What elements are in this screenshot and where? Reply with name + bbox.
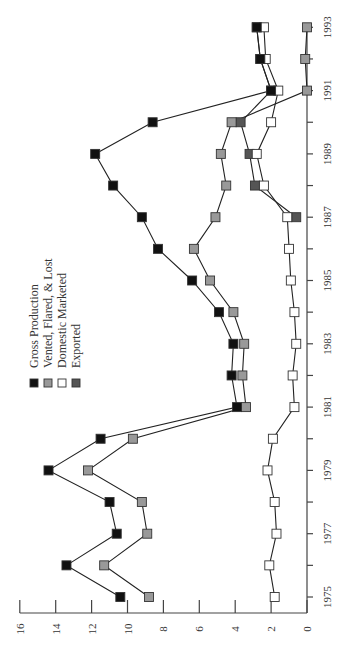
value-axis-tick-label: 6 [193, 626, 205, 632]
data-point-marker [206, 276, 215, 285]
data-point-marker [236, 118, 245, 127]
data-point-marker [91, 149, 100, 158]
data-point-marker [189, 244, 198, 253]
value-axis-tick-label: 14 [50, 623, 62, 635]
data-point-marker [211, 213, 220, 222]
data-point-marker [112, 529, 121, 538]
data-point-marker [292, 339, 301, 348]
year-axis-tick-label: 1981 [321, 396, 333, 418]
data-point-marker [216, 149, 225, 158]
data-point-marker [143, 529, 152, 538]
data-point-marker [100, 561, 109, 570]
data-point-marker [215, 308, 224, 317]
year-axis-tick-label: 1987 [321, 206, 333, 229]
data-point-marker [232, 403, 241, 412]
value-axis-tick-label: 16 [14, 623, 26, 635]
data-point-marker [128, 434, 137, 443]
data-point-marker [268, 434, 277, 443]
data-point-marker [256, 54, 265, 63]
data-point-marker [241, 403, 250, 412]
data-point-marker [62, 561, 71, 570]
year-axis-tick-label: 1985 [321, 269, 333, 292]
data-point-marker [286, 276, 295, 285]
data-point-marker [148, 118, 157, 127]
data-point-marker [272, 529, 281, 538]
data-point-marker [145, 593, 154, 602]
data-point-marker [96, 434, 105, 443]
data-point-marker [240, 339, 249, 348]
series-lines [49, 27, 308, 597]
year-axis-tick-label: 1979 [321, 459, 333, 482]
value-axis-tick-label: 10 [122, 623, 134, 635]
value-axis-tick-label: 8 [157, 626, 169, 632]
legend-swatch [72, 379, 80, 387]
data-point-marker [137, 498, 146, 507]
data-point-marker [303, 86, 312, 95]
data-point-marker [285, 244, 294, 253]
series-markers [44, 23, 311, 602]
value-axis-tick-label: 0 [301, 626, 313, 632]
data-point-marker [44, 466, 53, 475]
data-point-marker [259, 181, 268, 190]
data-point-marker [229, 308, 238, 317]
data-point-marker [227, 118, 236, 127]
data-point-marker [288, 371, 297, 380]
legend-label: Exported [69, 324, 83, 368]
year-axis-tick-label: 1975 [321, 586, 333, 609]
year-axis-tick-label: 1983 [321, 332, 333, 355]
year-axis-tick-label: 1993 [321, 16, 333, 39]
value-axis-tick-label: 12 [86, 624, 98, 635]
data-point-marker [265, 561, 274, 570]
data-point-marker [105, 498, 114, 507]
value-axis-tick-label: 2 [265, 626, 277, 632]
legend-swatch [58, 379, 66, 387]
data-point-marker [290, 403, 299, 412]
legend-label: Vented, Flared, & Lost [41, 258, 55, 368]
data-point-marker [116, 593, 125, 602]
year-axis-tick-label: 1989 [321, 142, 333, 165]
series-line [88, 27, 307, 597]
data-point-marker [84, 466, 93, 475]
legend-swatch [44, 379, 52, 387]
data-point-marker [270, 498, 279, 507]
rotated-line-chart: 0246810121416197519771979198119831985198… [0, 0, 356, 662]
data-point-marker [229, 339, 238, 348]
data-point-marker [290, 308, 299, 317]
data-point-marker [188, 276, 197, 285]
data-point-marker [292, 213, 301, 222]
data-point-marker [109, 181, 118, 190]
year-axis-tick-label: 1991 [321, 80, 333, 102]
data-point-marker [283, 213, 292, 222]
data-point-marker [263, 466, 272, 475]
year-axis-tick-label: 1977 [321, 522, 333, 545]
legend: Gross ProductionVented, Flared, & LostDo… [27, 258, 83, 387]
data-point-marker [222, 181, 231, 190]
data-point-marker [301, 54, 310, 63]
data-point-marker [227, 371, 236, 380]
legend-label: Domestic Marketed [55, 273, 69, 368]
data-point-marker [267, 86, 276, 95]
data-point-marker [267, 118, 276, 127]
value-axis-tick-label: 4 [229, 626, 241, 632]
data-point-marker [250, 181, 259, 190]
data-point-marker [303, 23, 312, 32]
data-point-marker [154, 244, 163, 253]
data-point-marker [270, 593, 279, 602]
data-point-marker [137, 213, 146, 222]
data-point-marker [252, 23, 261, 32]
data-point-marker [252, 149, 261, 158]
legend-swatch [30, 379, 38, 387]
legend-label: Gross Production [27, 284, 41, 368]
data-point-marker [238, 371, 247, 380]
